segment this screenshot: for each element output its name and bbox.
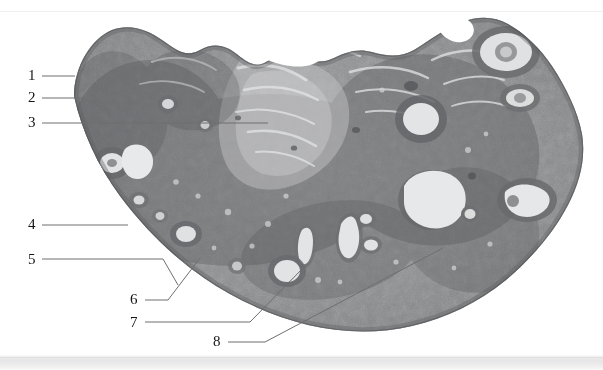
callout-label-4: 4 (28, 217, 36, 232)
callout-label-1: 1 (28, 68, 36, 83)
callout-label-5: 5 (28, 252, 36, 267)
ovary-micrograph-image (0, 0, 603, 370)
callout-label-6: 6 (130, 292, 138, 307)
callout-label-8: 8 (213, 334, 221, 349)
callout-label-2: 2 (28, 90, 36, 105)
tissue-section (58, 12, 600, 342)
callout-label-3: 3 (28, 115, 36, 130)
callout-label-7: 7 (130, 315, 138, 330)
figure-canvas: 1 2 3 4 5 6 7 8 (0, 0, 603, 370)
footer-band (0, 355, 603, 370)
